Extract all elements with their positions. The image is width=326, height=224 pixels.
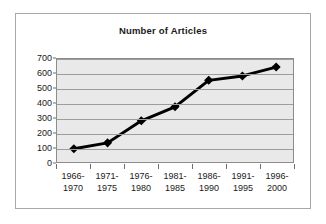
chart-title: Number of Articles xyxy=(16,25,310,36)
gridline xyxy=(57,89,293,90)
x-axis-tick-label-line: 1986- xyxy=(192,170,226,182)
x-axis-tick-label: 1971-1975 xyxy=(90,170,124,210)
gridline xyxy=(57,59,293,60)
y-axis-tick-label: 0 xyxy=(16,159,52,168)
x-axis-tick-label: 1991-1995 xyxy=(226,170,260,210)
x-axis-tick-mark xyxy=(124,164,125,169)
data-point-marker: 1996-2000: 645 xyxy=(272,63,281,72)
chart-frame: Number of Articles 010020030040050060070… xyxy=(15,13,311,209)
plot-gridlines-and-series: 1966-1970: 901971-1975: 1301976-1980: 28… xyxy=(57,59,293,162)
y-axis-tick-label: 400 xyxy=(16,99,52,108)
x-axis-tick-mark xyxy=(192,164,193,169)
x-axis-tick-mark xyxy=(294,164,295,169)
x-axis-tick-mark xyxy=(56,164,57,169)
x-axis-tick-label-line: 1985 xyxy=(158,182,192,194)
data-point-marker: 1991-1995: 585 xyxy=(238,71,247,80)
x-axis-tick-label-line: 1966- xyxy=(56,170,90,182)
gridline xyxy=(57,119,293,120)
x-axis-tick-mark xyxy=(90,164,91,169)
gridline xyxy=(57,149,293,150)
gridline xyxy=(57,104,293,105)
x-axis-tick-label-line: 2000 xyxy=(260,182,294,194)
x-axis-tick-label-line: 1996- xyxy=(260,170,294,182)
x-axis-tick-mark xyxy=(226,164,227,169)
x-axis-tick-label-line: 1970 xyxy=(56,182,90,194)
x-axis-tick-label-line: 1991- xyxy=(226,170,260,182)
x-axis-tick-label-line: 1976- xyxy=(124,170,158,182)
y-axis: 0100200300400500600700 xyxy=(16,58,52,163)
x-axis-tick-label: 1996-2000 xyxy=(260,170,294,210)
x-axis-tick-mark xyxy=(158,164,159,169)
x-axis-tick-label-line: 1981- xyxy=(158,170,192,182)
x-axis-tick-label-line: 1980 xyxy=(124,182,158,194)
x-axis-tick-label-line: 1975 xyxy=(90,182,124,194)
x-axis-tick-label: 1986-1990 xyxy=(192,170,226,210)
x-axis-tick-mark xyxy=(260,164,261,169)
plot-area: 1966-1970: 901971-1975: 1301976-1980: 28… xyxy=(56,58,294,163)
x-axis-tick-label-line: 1995 xyxy=(226,182,260,194)
y-axis-tick-label: 500 xyxy=(16,84,52,93)
x-axis-tick-label-line: 1971- xyxy=(90,170,124,182)
y-axis-tick-label: 100 xyxy=(16,144,52,153)
x-axis-tick-label: 1981-1985 xyxy=(158,170,192,210)
y-axis-tick-label: 700 xyxy=(16,54,52,63)
x-axis-tick-label: 1966-1970 xyxy=(56,170,90,210)
y-axis-tick-label: 200 xyxy=(16,129,52,138)
x-axis-tick-label-line: 1990 xyxy=(192,182,226,194)
y-axis-tick-label: 600 xyxy=(16,69,52,78)
x-axis-tick-label: 1976-1980 xyxy=(124,170,158,210)
gridline xyxy=(57,134,293,135)
y-axis-tick-label: 300 xyxy=(16,114,52,123)
x-axis: 1966-19701971-19751976-19801981-19851986… xyxy=(56,170,294,210)
gridline xyxy=(57,74,293,75)
